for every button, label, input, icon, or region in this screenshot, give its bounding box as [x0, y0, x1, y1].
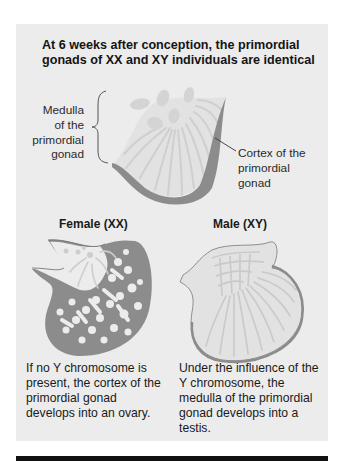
medulla-label-line: gonad — [26, 147, 84, 162]
male-description-line: Under the influence of the — [179, 361, 329, 376]
female-description-line: If no Y chromosome is — [26, 361, 171, 376]
female-description-line: develops into an ovary. — [26, 406, 171, 421]
medulla-label-line: primordial — [26, 133, 84, 148]
ovary-icon — [32, 240, 152, 356]
cortex-label-line: Cortex of the — [238, 146, 324, 161]
bottom-divider-bar — [16, 456, 328, 461]
medulla-brace-icon — [92, 91, 108, 163]
male-description-line: testis. — [179, 421, 329, 436]
cortex-label-line: primordial — [238, 161, 324, 176]
cortex-label: Cortex of the primordial gonad — [238, 146, 324, 190]
male-description-line: gonad develops into a — [179, 406, 329, 421]
medulla-label: Medulla of the primordial gonad — [26, 103, 84, 162]
male-description-line: medulla of the primordial — [179, 391, 329, 406]
testis-icon — [180, 242, 303, 362]
primordial-gonad-icon — [112, 86, 226, 205]
male-description: Under the influence of the Y chromosome,… — [179, 361, 329, 436]
female-heading: Female (XX) — [59, 217, 128, 231]
male-heading: Male (XY) — [213, 217, 267, 231]
female-description-line: present, the cortex of the — [26, 376, 171, 391]
male-description-line: Y chromosome, the — [179, 376, 329, 391]
female-description: If no Y chromosome is present, the corte… — [26, 361, 171, 421]
cortex-label-line: gonad — [238, 176, 324, 191]
medulla-label-line: of the — [26, 118, 84, 133]
female-description-line: primordial gonad — [26, 391, 171, 406]
medulla-label-line: Medulla — [26, 103, 84, 118]
